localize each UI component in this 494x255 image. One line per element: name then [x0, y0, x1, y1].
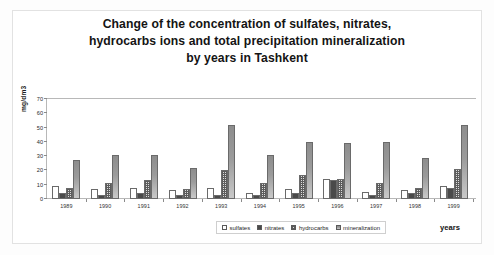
- bar-sulfates-1991: [130, 188, 137, 199]
- bar-hydrocarbs-1997: [376, 183, 383, 199]
- chart-title-line-1: Change of the concentration of sulfates,…: [22, 16, 472, 33]
- bar-group: [318, 99, 357, 199]
- bar-sulfates-1998: [401, 190, 408, 199]
- y-axis-tick-label: 60: [23, 110, 43, 116]
- bar-group: [279, 99, 318, 199]
- x-axis-tick-mark: [396, 199, 397, 202]
- bar-sulfates-1997: [362, 192, 369, 199]
- chart-figure: Change of the concentration of sulfates,…: [0, 0, 494, 255]
- bar-mineralization-1989: [73, 160, 80, 199]
- bar-hydrocarbs-1999: [454, 169, 461, 199]
- x-axis-tick-label-1998: 1998: [395, 203, 435, 209]
- bar-group: [47, 99, 86, 199]
- x-axis-tick-label-1994: 1994: [240, 203, 280, 209]
- bar-sulfates-1994: [246, 193, 253, 199]
- x-axis-tick-label-1996: 1996: [317, 203, 357, 209]
- bar-group: [241, 99, 280, 199]
- bar-group: [86, 99, 125, 199]
- x-axis-tick-label-1999: 1999: [434, 203, 474, 209]
- x-axis-tick-mark: [473, 199, 474, 202]
- bar-mineralization-1991: [151, 155, 158, 199]
- bar-hydrocarbs-1998: [415, 188, 422, 199]
- x-axis-tick-label-1991: 1991: [124, 203, 164, 209]
- y-axis-tick-label: 30: [23, 153, 43, 159]
- chart-title-line-3: by years in Tashkent: [22, 50, 472, 67]
- bar-sulfates-1995: [285, 189, 292, 199]
- legend-item-nitrates[interactable]: nitrates: [257, 225, 284, 231]
- legend-label: hydrocarbs: [299, 225, 329, 231]
- bar-group: [434, 99, 473, 199]
- legend-swatch-icon-nitrates: [257, 225, 262, 230]
- chart-legend: sulfatesnitrateshydrocarbsmineralization: [216, 221, 386, 234]
- bar-nitrates-1994: [253, 195, 260, 199]
- x-axis-tick-mark: [124, 199, 125, 202]
- chart-title-line-2: hydrocarbs ions and total precipitation …: [22, 33, 472, 50]
- bar-hydrocarbs-1989: [66, 188, 73, 199]
- bar-nitrates-1993: [214, 195, 221, 199]
- bar-mineralization-1992: [190, 168, 197, 199]
- bar-mineralization-1994: [267, 155, 274, 199]
- legend-label: mineralization: [343, 225, 380, 231]
- bar-mineralization-1998: [422, 158, 429, 199]
- bar-nitrates-1995: [292, 193, 299, 199]
- legend-swatch-icon-hydrocarbs: [291, 225, 296, 230]
- bar-mineralization-1997: [383, 142, 390, 199]
- y-axis-tick-label: 70: [23, 96, 43, 102]
- bar-hydrocarbs-1991: [144, 180, 151, 199]
- bar-nitrates-1992: [176, 195, 183, 199]
- bar-hydrocarbs-1994: [260, 183, 267, 199]
- bar-group: [357, 99, 396, 199]
- x-axis-title: years: [440, 223, 460, 232]
- legend-item-mineralization[interactable]: mineralization: [336, 225, 381, 231]
- bar-nitrates-1998: [408, 193, 415, 199]
- legend-label: nitrates: [265, 225, 285, 231]
- y-axis-tick-label: 10: [23, 182, 43, 188]
- x-axis-tick-mark: [434, 199, 435, 202]
- legend-item-hydrocarbs[interactable]: hydrocarbs: [291, 225, 328, 231]
- x-axis-tick-label-1990: 1990: [85, 203, 125, 209]
- bar-mineralization-1995: [306, 142, 313, 199]
- legend-swatch-icon-sulfates: [222, 225, 227, 230]
- bar-nitrates-1990: [98, 195, 105, 199]
- bar-nitrates-1989: [59, 193, 66, 199]
- y-axis-tick-label: 0: [23, 196, 43, 202]
- bar-group: [163, 99, 202, 199]
- legend-swatch-icon-mineralization: [336, 225, 341, 230]
- bar-nitrates-1991: [137, 193, 144, 199]
- y-axis-tick-label: 20: [23, 167, 43, 173]
- x-axis-tick-label-1997: 1997: [356, 203, 396, 209]
- x-axis-tick-mark: [318, 199, 319, 202]
- chart-title: Change of the concentration of sulfates,…: [22, 16, 472, 67]
- bar-hydrocarbs-1996: [337, 179, 344, 199]
- plot-area: 010203040506070: [47, 99, 473, 199]
- x-axis-tick-mark: [279, 199, 280, 202]
- x-axis-tick-mark: [241, 199, 242, 202]
- bar-sulfates-1999: [440, 186, 447, 199]
- bar-group: [202, 99, 241, 199]
- x-axis-tick-mark: [86, 199, 87, 202]
- bar-sulfates-1996: [323, 179, 330, 199]
- y-axis-tick-label: 40: [23, 139, 43, 145]
- bar-sulfates-1990: [91, 189, 98, 199]
- x-axis-tick-label-1995: 1995: [279, 203, 319, 209]
- x-axis-tick-label-1992: 1992: [163, 203, 203, 209]
- bar-mineralization-1999: [461, 125, 468, 199]
- bar-hydrocarbs-1990: [105, 183, 112, 199]
- bar-group: [124, 99, 163, 199]
- bar-sulfates-1992: [169, 190, 176, 199]
- bar-sulfates-1989: [52, 186, 59, 199]
- bar-mineralization-1993: [228, 125, 235, 199]
- legend-label: sulfates: [230, 225, 251, 231]
- bar-nitrates-1996: [330, 180, 337, 199]
- bar-hydrocarbs-1993: [221, 170, 228, 199]
- bar-hydrocarbs-1995: [299, 175, 306, 199]
- x-axis-tick-mark: [357, 199, 358, 202]
- bar-hydrocarbs-1992: [183, 189, 190, 199]
- legend-item-sulfates[interactable]: sulfates: [222, 225, 250, 231]
- y-axis-tick-label: 50: [23, 125, 43, 131]
- x-axis-tick-mark: [202, 199, 203, 202]
- bar-group: [396, 99, 435, 199]
- bar-mineralization-1996: [344, 143, 351, 199]
- bar-nitrates-1997: [369, 195, 376, 199]
- bar-nitrates-1999: [447, 188, 454, 199]
